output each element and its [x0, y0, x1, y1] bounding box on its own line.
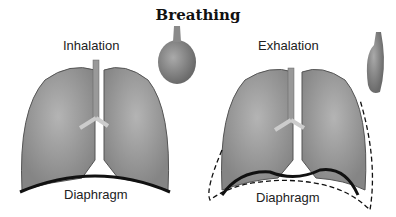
- deflated-balloon: [367, 32, 384, 93]
- inhalation-label: Inhalation: [63, 38, 119, 53]
- illustration: [0, 0, 396, 217]
- breathing-diagram: Breathing Inhalation Exhalation Diaphrag…: [0, 0, 396, 217]
- diaphragm-label-exhalation: Diaphragm: [256, 190, 320, 205]
- diagram-title: Breathing: [0, 6, 396, 24]
- exhalation-label: Exhalation: [258, 38, 319, 53]
- diaphragm-label-inhalation: Diaphragm: [64, 187, 128, 202]
- trachea: [93, 60, 99, 120]
- exhalation-lungs: [209, 68, 373, 210]
- trachea: [288, 68, 294, 120]
- inflated-balloon: [158, 26, 196, 84]
- inhalation-lungs: [20, 60, 170, 192]
